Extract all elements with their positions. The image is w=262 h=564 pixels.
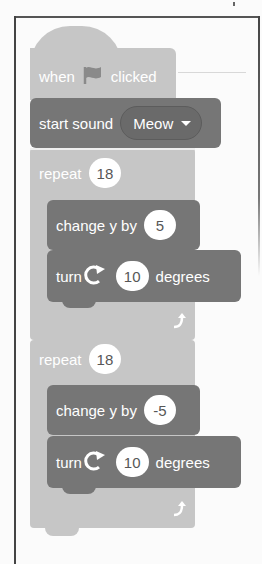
rotate-clockwise-icon <box>84 264 108 289</box>
turn-block[interactable]: turn 10 degrees <box>47 250 241 302</box>
scan-mark <box>233 2 235 6</box>
sound-dropdown[interactable]: Meow <box>120 106 202 140</box>
repeat-label: repeat <box>39 351 82 368</box>
change-y-input[interactable]: 5 <box>144 210 176 240</box>
block-separator <box>30 148 195 150</box>
degrees-label: degrees <box>156 454 210 471</box>
change-y-label: change y by <box>56 217 137 234</box>
hat-label-when: when <box>39 68 75 85</box>
repeat-count-input[interactable]: 18 <box>89 158 122 188</box>
repeat-count-input[interactable]: 18 <box>89 344 122 374</box>
sound-dropdown-value: Meow <box>133 115 173 132</box>
rotate-clockwise-icon <box>84 450 108 475</box>
when-flag-clicked-block[interactable]: when clicked <box>30 48 176 100</box>
hat-label-clicked: clicked <box>111 68 157 85</box>
repeat-label: repeat <box>39 165 82 182</box>
block-notch <box>45 526 79 536</box>
frame-border-top <box>14 16 260 18</box>
loop-arrow-icon <box>172 500 188 522</box>
turn-degrees-input[interactable]: 10 <box>116 261 149 291</box>
green-flag-icon <box>82 65 104 88</box>
block-notch <box>62 486 96 494</box>
turn-degrees-input[interactable]: 10 <box>116 447 149 477</box>
frame-border-right <box>258 16 260 276</box>
repeat-header-1[interactable]: repeat 18 <box>30 148 195 198</box>
change-y-input[interactable]: -5 <box>144 395 176 425</box>
change-y-block[interactable]: change y by 5 <box>47 200 200 250</box>
frame-border-left <box>14 16 16 564</box>
chevron-down-icon <box>181 121 191 126</box>
hat-guide-line <box>178 72 246 73</box>
repeat-header-2[interactable]: repeat 18 <box>30 334 195 384</box>
degrees-label: degrees <box>156 268 210 285</box>
change-y-block[interactable]: change y by -5 <box>47 385 200 435</box>
change-y-label: change y by <box>56 402 137 419</box>
block-notch <box>62 300 96 308</box>
turn-block[interactable]: turn 10 degrees <box>47 436 241 488</box>
start-sound-block[interactable]: start sound Meow <box>30 98 221 148</box>
turn-label: turn <box>56 454 82 471</box>
turn-label: turn <box>56 268 82 285</box>
start-sound-label: start sound <box>39 115 113 132</box>
